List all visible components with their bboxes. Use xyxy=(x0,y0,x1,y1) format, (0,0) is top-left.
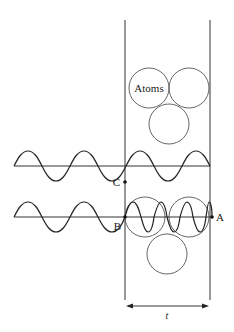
arrowhead-left-icon xyxy=(126,304,133,309)
width-label: t xyxy=(166,310,169,321)
width-dimension-arrow xyxy=(126,304,209,309)
point-b-marker xyxy=(123,215,127,219)
diagram-canvas: Atoms C B A t xyxy=(0,0,234,332)
arrowhead-right-icon xyxy=(202,304,209,309)
point-a-label: A xyxy=(216,211,224,223)
point-c-label: C xyxy=(113,176,120,188)
atom-circle xyxy=(169,68,209,108)
atoms-top-cluster: Atoms xyxy=(129,68,209,144)
point-b-label: B xyxy=(114,220,121,232)
atom-circle xyxy=(149,104,189,144)
point-a-marker xyxy=(210,215,214,219)
point-c-marker xyxy=(123,180,127,184)
atoms-label: Atoms xyxy=(134,82,163,94)
atoms-bottom-cluster xyxy=(125,197,209,274)
atom-circle xyxy=(147,234,187,274)
